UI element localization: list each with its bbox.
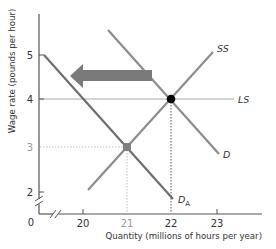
new-equilibrium-point — [123, 143, 131, 151]
d-curve — [108, 30, 219, 154]
x-tick-label-23: 23 — [211, 218, 224, 229]
labour-market-chart: 5 4 3 2 0 20 21 22 23 Wage rate (pounds … — [0, 0, 276, 249]
x-tick-label-20: 20 — [77, 218, 90, 229]
guide-lines — [40, 99, 171, 213]
ls-label: LS — [238, 94, 249, 105]
x-tick-label-22: 22 — [165, 218, 178, 229]
ss-label: SS — [217, 43, 229, 54]
da-label-sub: A — [185, 200, 190, 208]
origin-label: 0 — [28, 217, 34, 228]
shift-left-arrow-icon — [70, 64, 152, 88]
y-tick-label-4: 4 — [27, 94, 33, 105]
y-axis-title: Wage rate (pounds per hour) — [7, 9, 17, 134]
y-tick-label-5: 5 — [27, 50, 33, 61]
y-tick-label-2: 2 — [27, 187, 33, 198]
da-label: DA — [178, 194, 190, 208]
original-equilibrium-point — [167, 95, 176, 104]
x-axis-title: Quantity (millions of hours per year) — [106, 231, 263, 241]
da-label-main: D — [178, 194, 185, 205]
y-tick-label-3: 3 — [27, 142, 33, 153]
d-label: D — [223, 149, 230, 160]
x-tick-label-21: 21 — [121, 218, 134, 229]
